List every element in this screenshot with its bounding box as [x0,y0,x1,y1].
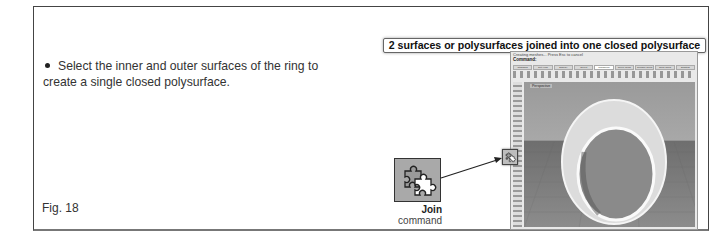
callout-arrow [0,0,723,234]
join-subtitle: command [380,215,442,226]
join-title: Join [380,204,442,215]
join-caption: Join command [380,204,442,226]
